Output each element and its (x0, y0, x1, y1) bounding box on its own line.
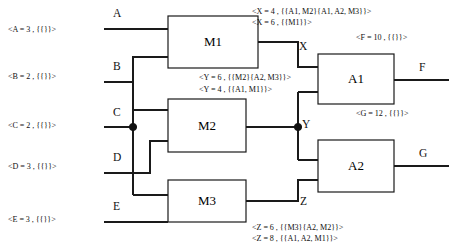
port-label-g: G (419, 148, 427, 160)
annotation-y-1: <Y = 6 , {{M2}{A2, M3}}> (199, 74, 291, 82)
port-label-b: B (113, 61, 121, 73)
gate-label-a2-wrap: A2 (318, 140, 394, 192)
annotation-output-f: <F = 10 , {{}}> (356, 34, 407, 42)
annotation-input-c: <C = 2 , {{}}> (8, 122, 56, 130)
port-label-f: F (419, 62, 425, 74)
gate-label-m2: M2 (198, 118, 216, 134)
gate-label-a2: A2 (348, 158, 364, 174)
port-label-z: Z (300, 196, 307, 208)
port-label-y: Y (302, 119, 310, 131)
port-label-d: D (113, 152, 121, 164)
gate-label-m2-wrap: M2 (168, 99, 246, 152)
port-label-c: C (113, 107, 121, 119)
annotation-z-2: <Z = 8 , {{A1, A2, M1}}> (252, 235, 338, 243)
annotation-z-1: <Z = 6 , {{M3}{A2, M2}}> (252, 224, 343, 232)
gate-label-m3-wrap: M3 (168, 180, 246, 222)
port-label-x: X (299, 41, 307, 53)
annotation-input-d: <D = 3 , {{}}> (8, 163, 57, 171)
diagram-canvas: M1 M2 M3 A1 A2 A B C D E X Y Z F G <A = … (0, 0, 457, 250)
annotation-output-g: <G = 12 , {{}}> (356, 110, 409, 118)
junction-dot-y (294, 123, 301, 130)
gate-label-a1: A1 (348, 71, 364, 87)
gate-label-m1-wrap: M1 (168, 16, 258, 68)
annotation-input-b: <B = 2 , {{}}> (8, 73, 56, 81)
annotation-input-a: <A = 3 , {{}}> (8, 26, 56, 34)
annotation-input-e: <E = 3 , {{}}> (8, 216, 56, 224)
port-label-e: E (113, 201, 120, 213)
gate-label-a1-wrap: A1 (318, 54, 394, 104)
wire-x-m1-to-a1 (258, 42, 318, 67)
annotation-y-2: <Y = 4 , {{A1, M1}}> (199, 86, 272, 94)
port-label-a: A (113, 8, 121, 20)
gate-label-m1: M1 (204, 34, 222, 50)
wire-z-m3-to-a2 (246, 180, 318, 201)
junction-dot-c (129, 123, 136, 130)
gate-label-m3: M3 (198, 193, 216, 209)
annotation-x-2: <X = 6 , {{M1}}> (252, 19, 312, 27)
annotation-x-1: <X = 4 , {{A1, M2}{A1, A2, M3}}> (252, 8, 371, 16)
